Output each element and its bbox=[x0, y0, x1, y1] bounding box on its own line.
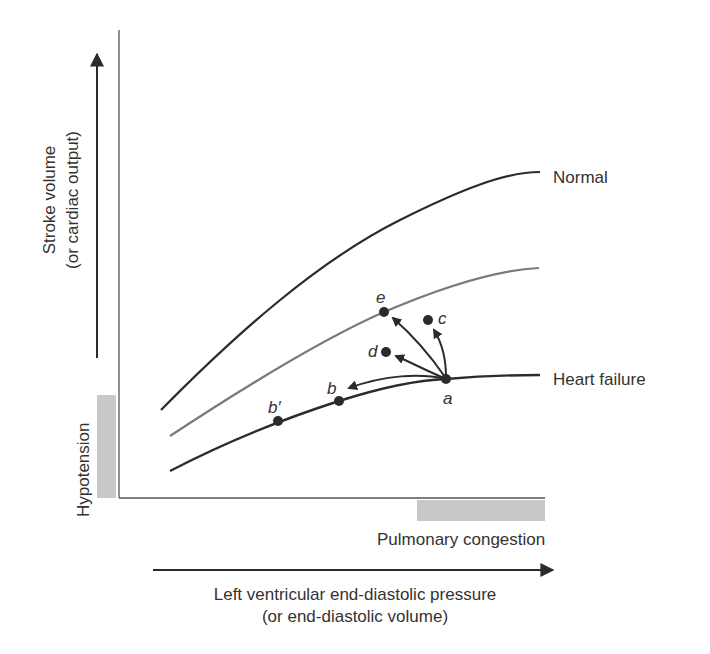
intermediate-curve bbox=[170, 268, 539, 436]
frank-starling-diagram: a b b′ e d c Normal Heart failure Pulmon… bbox=[0, 0, 710, 654]
point-d bbox=[381, 347, 391, 357]
hypotension-region bbox=[97, 395, 116, 498]
point-a-label: a bbox=[443, 389, 452, 408]
point-b-prime bbox=[273, 416, 283, 426]
pulmonary-congestion-label: Pulmonary congestion bbox=[377, 530, 545, 549]
point-d-label: d bbox=[368, 342, 378, 361]
normal-curve bbox=[161, 172, 540, 410]
y-axis-label-line1: Stroke volume bbox=[40, 146, 59, 255]
normal-curve-label: Normal bbox=[553, 168, 608, 187]
point-c-label: c bbox=[438, 309, 447, 328]
point-c bbox=[423, 315, 433, 325]
pulmonary-congestion-region bbox=[417, 500, 545, 521]
point-a bbox=[441, 374, 451, 384]
heart-failure-curve bbox=[170, 375, 540, 471]
x-axis-label-line1: Left ventricular end-diastolic pressure bbox=[214, 585, 497, 604]
point-b-label: b bbox=[327, 379, 336, 398]
y-axis-label-line2: (or cardiac output) bbox=[63, 131, 82, 269]
point-b-prime-label: b′ bbox=[268, 398, 281, 417]
point-e bbox=[379, 307, 389, 317]
point-e-label: e bbox=[376, 288, 385, 307]
hypotension-label: Hypotension bbox=[74, 422, 93, 517]
x-axis-label-line2: (or end-diastolic volume) bbox=[262, 607, 448, 626]
heart-failure-curve-label: Heart failure bbox=[553, 370, 646, 389]
